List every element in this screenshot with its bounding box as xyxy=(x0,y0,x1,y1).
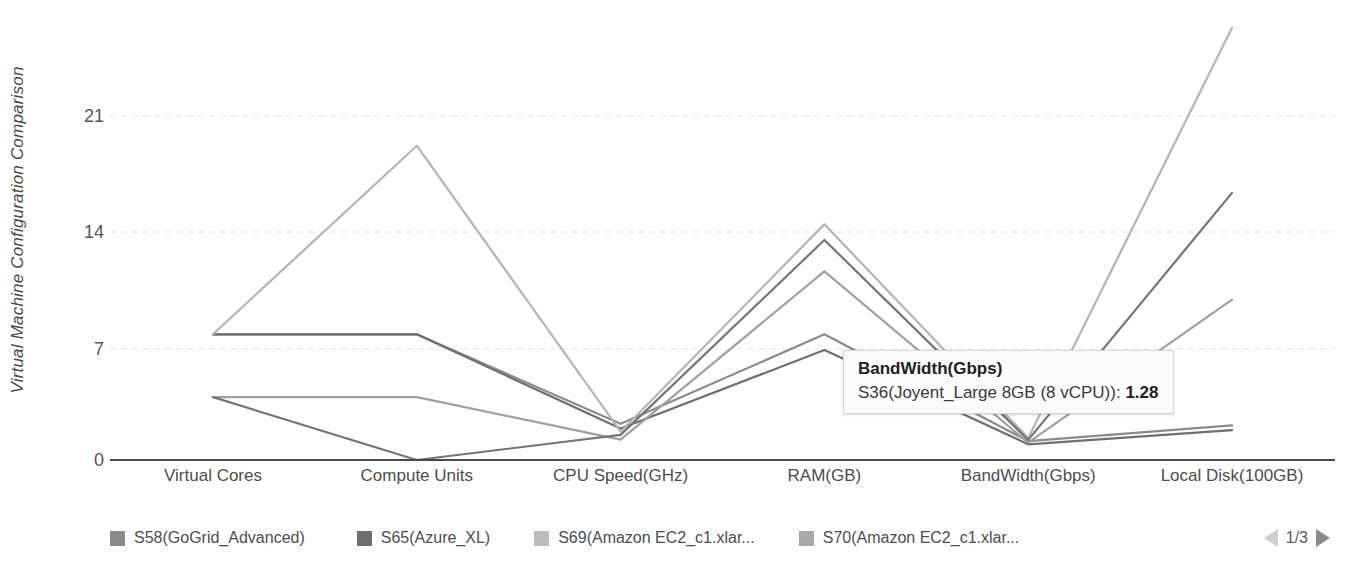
x-tick-label: Compute Units xyxy=(361,466,473,486)
legend-item[interactable]: S70(Amazon EC2_c1.xlar... xyxy=(799,530,1020,546)
tooltip-series-label: S36(Joyent_Large 8GB (8 vCPU)): xyxy=(858,383,1121,402)
x-tick-label: RAM(GB) xyxy=(788,466,862,486)
chart-legend[interactable]: S58(GoGrid_Advanced)S65(Azure_XL)S69(Ama… xyxy=(110,520,1340,556)
legend-page-indicator: 1/3 xyxy=(1286,530,1308,546)
y-tick-14: 14 xyxy=(64,222,104,243)
legend-item-label: S69(Amazon EC2_c1.xlar... xyxy=(558,530,755,546)
triangle-left-icon[interactable] xyxy=(1264,529,1278,547)
legend-item-label: S58(GoGrid_Advanced) xyxy=(134,530,305,546)
legend-item[interactable]: S65(Azure_XL) xyxy=(357,530,490,546)
x-axis-labels: Virtual CoresCompute UnitsCPU Speed(GHz)… xyxy=(110,466,1335,496)
legend-item[interactable]: S69(Amazon EC2_c1.xlar... xyxy=(534,530,755,546)
x-tick-label: Virtual Cores xyxy=(164,466,262,486)
y-tick-0: 0 xyxy=(64,450,104,471)
y-tick-21: 21 xyxy=(64,106,104,127)
legend-item-label: S65(Azure_XL) xyxy=(381,530,490,546)
legend-pager[interactable]: 1/3 xyxy=(1264,529,1340,547)
legend-swatch-icon xyxy=(357,531,372,546)
legend-items[interactable]: S58(GoGrid_Advanced)S65(Azure_XL)S69(Ama… xyxy=(110,530,1019,546)
legend-swatch-icon xyxy=(110,531,125,546)
gridlines xyxy=(110,116,1335,349)
legend-item-label: S70(Amazon EC2_c1.xlar... xyxy=(823,530,1020,546)
x-tick-label: BandWidth(Gbps) xyxy=(961,466,1096,486)
tooltip-row: S36(Joyent_Large 8GB (8 vCPU)): 1.28 xyxy=(858,383,1159,403)
chart-tooltip: BandWidth(Gbps) S36(Joyent_Large 8GB (8 … xyxy=(843,350,1174,414)
x-tick-label: CPU Speed(GHz) xyxy=(553,466,688,486)
tooltip-title: BandWidth(Gbps) xyxy=(858,359,1159,379)
legend-swatch-icon xyxy=(799,531,814,546)
chart-page: Virtual Machine Configuration Comparison… xyxy=(0,0,1349,582)
legend-item[interactable]: S58(GoGrid_Advanced) xyxy=(110,530,305,546)
y-axis-title: Virtual Machine Configuration Comparison xyxy=(0,0,36,460)
y-axis-title-text: Virtual Machine Configuration Comparison xyxy=(8,66,28,393)
y-axis-ticks: 21 14 7 0 xyxy=(42,0,104,462)
x-tick-label: Local Disk(100GB) xyxy=(1161,466,1304,486)
triangle-right-icon[interactable] xyxy=(1316,529,1330,547)
legend-swatch-icon xyxy=(534,531,549,546)
series-line[interactable] xyxy=(213,193,1232,460)
tooltip-value: 1.28 xyxy=(1125,383,1158,402)
y-tick-7: 7 xyxy=(64,339,104,360)
